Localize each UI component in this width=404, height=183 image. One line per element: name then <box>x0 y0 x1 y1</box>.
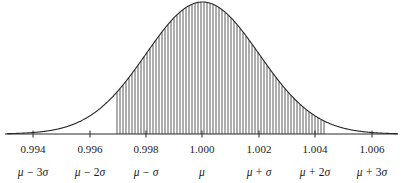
sigma-symbol: σ <box>100 166 106 178</box>
sigma-operator: + <box>363 166 376 178</box>
sigma-symbol: σ <box>153 166 159 178</box>
x-sigma-label: μ <box>199 166 205 178</box>
sigma-operator: + <box>306 166 319 178</box>
x-tick-label: 0.996 <box>77 143 102 155</box>
x-sigma-label: μ + σ <box>247 166 272 178</box>
sigma-operator: − <box>81 166 94 178</box>
x-tick-label: 1.006 <box>359 143 384 155</box>
sigma-symbol: σ <box>382 166 388 178</box>
mu-symbol: μ <box>300 166 306 178</box>
x-sigma-label: μ + 2σ <box>300 166 330 178</box>
sigma-operator: − <box>24 166 37 178</box>
mu-symbol: μ <box>134 166 140 178</box>
x-sigma-label: μ − 3σ <box>18 166 48 178</box>
hatch-group <box>117 2 324 134</box>
mu-symbol: μ <box>199 166 205 178</box>
sigma-symbol: σ <box>325 166 331 178</box>
sigma-symbol: σ <box>43 166 49 178</box>
x-tick-label: 1.000 <box>189 143 214 155</box>
sigma-symbol: σ <box>266 166 272 178</box>
x-tick-label: 0.994 <box>20 143 45 155</box>
bell-curve-path <box>8 2 398 134</box>
sigma-operator: − <box>139 166 152 178</box>
x-tick-label: 1.002 <box>246 143 271 155</box>
x-sigma-label: μ + 3σ <box>357 166 387 178</box>
mu-symbol: μ <box>247 166 253 178</box>
x-sigma-label: μ − σ <box>134 166 159 178</box>
mu-symbol: μ <box>75 166 81 178</box>
mu-symbol: μ <box>18 166 24 178</box>
mu-symbol: μ <box>357 166 363 178</box>
distribution-plot <box>0 0 404 183</box>
x-sigma-label: μ − 2σ <box>75 166 105 178</box>
x-tick-label: 0.998 <box>133 143 158 155</box>
x-tick-label: 1.004 <box>302 143 327 155</box>
normal-distribution-figure: 0.9940.9960.9981.0001.0021.0041.006 μ − … <box>0 0 404 183</box>
sigma-operator: + <box>252 166 265 178</box>
